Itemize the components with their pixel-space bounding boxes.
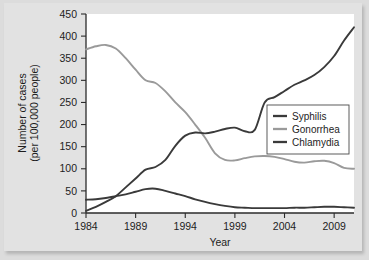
y-tick-label: 300 [59, 74, 77, 86]
x-tick-label: 1999 [223, 220, 247, 232]
y-tick-label: 250 [59, 96, 77, 108]
y-tick-label: 150 [59, 140, 77, 152]
y-axis-title-line2: (per 100,000 people) [28, 64, 40, 162]
line-chart: 050100150200250300350400450 198419891994… [4, 3, 362, 251]
x-axis-title: Year [209, 236, 231, 248]
x-tick-label: 1989 [124, 220, 148, 232]
x-tick-label: 2004 [273, 220, 297, 232]
figure-card: 050100150200250300350400450 198419891994… [4, 3, 362, 251]
y-tick-label: 450 [59, 8, 77, 20]
x-tick-label: 1994 [174, 220, 198, 232]
y-axis-ticks: 050100150200250300350400450 [59, 8, 86, 219]
y-tick-label: 400 [59, 30, 77, 42]
x-axis-ticks: 198419891994199920042009 [74, 213, 346, 232]
y-tick-label: 350 [59, 52, 77, 64]
y-tick-label: 100 [59, 162, 77, 174]
x-tick-label: 2009 [322, 220, 346, 232]
legend-label-chlamydia: Chlamydia [292, 137, 340, 148]
legend-label-syphilis: Syphilis [292, 111, 326, 122]
y-tick-label: 200 [59, 118, 77, 130]
y-tick-label: 50 [65, 185, 77, 197]
y-tick-label: 0 [71, 207, 77, 219]
x-tick-label: 1984 [74, 220, 98, 232]
y-axis-title-line1: Number of cases [16, 73, 28, 152]
chart-legend[interactable]: SyphilisGonorrheaChlamydia [267, 105, 349, 154]
legend-label-gonorrhea: Gonorrhea [292, 124, 340, 135]
figure-root: 050100150200250300350400450 198419891994… [0, 0, 369, 260]
